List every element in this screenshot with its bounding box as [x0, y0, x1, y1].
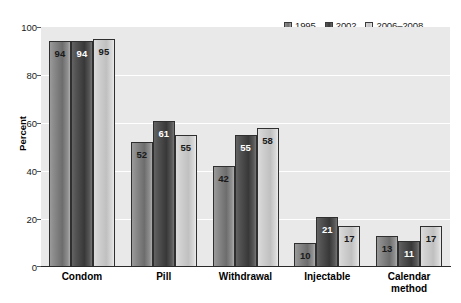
bar[interactable]: 94 — [71, 41, 93, 267]
bar-value-label: 55 — [236, 143, 256, 153]
x-label-line: method — [368, 283, 450, 295]
bar[interactable]: 58 — [257, 128, 279, 267]
bar-group: 102117 — [294, 27, 360, 267]
bar[interactable]: 17 — [420, 226, 442, 267]
bar-group: 131117 — [376, 27, 442, 267]
bar-value-label: 11 — [399, 249, 419, 259]
x-label-line: Condom — [41, 271, 123, 283]
bar-value-label: 61 — [154, 129, 174, 139]
bar-value-label: 13 — [377, 244, 397, 254]
bar-value-label: 94 — [50, 49, 70, 59]
x-axis-category-label: Pill — [123, 271, 205, 283]
y-tick-label: 40 — [0, 166, 37, 177]
x-axis-line — [41, 266, 451, 267]
bar-chart: 1995 2002 2006–2008 Percent 100 80 60 40… — [0, 0, 461, 303]
bar[interactable]: 55 — [235, 135, 257, 267]
x-axis-category-label: Condom — [41, 271, 123, 283]
x-axis-category-label: Calendarmethod — [368, 271, 450, 294]
bar[interactable]: 61 — [153, 121, 175, 267]
bar-value-label: 17 — [421, 234, 441, 244]
bar-value-label: 52 — [132, 150, 152, 160]
x-axis-category-label: Withdrawal — [205, 271, 287, 283]
bar-value-label: 10 — [295, 251, 315, 261]
bar[interactable]: 95 — [93, 39, 115, 267]
x-label-line: Pill — [123, 271, 205, 283]
bar[interactable]: 17 — [338, 226, 360, 267]
bar[interactable]: 42 — [213, 166, 235, 267]
y-tick-label: 80 — [0, 70, 37, 81]
x-axis-labels: CondomPillWithdrawalInjectableCalendarme… — [41, 271, 450, 303]
bar[interactable]: 55 — [175, 135, 197, 267]
bar[interactable]: 52 — [131, 142, 153, 267]
bar-value-label: 42 — [214, 174, 234, 184]
bar[interactable]: 13 — [376, 236, 398, 267]
bar-group: 949495 — [49, 27, 115, 267]
y-tick-label: 0 — [0, 262, 37, 273]
y-tick-label: 100 — [0, 22, 37, 33]
bar-group: 425558 — [213, 27, 279, 267]
bar-groups: 949495526155425558102117131117 — [41, 27, 450, 267]
bar-value-label: 95 — [94, 47, 114, 57]
x-label-line: Calendar — [368, 271, 450, 283]
bar[interactable]: 21 — [316, 217, 338, 267]
bar[interactable]: 11 — [398, 241, 420, 267]
x-label-line: Injectable — [286, 271, 368, 283]
bar-value-label: 17 — [339, 234, 359, 244]
bar-value-label: 21 — [317, 225, 337, 235]
y-tick-label: 20 — [0, 214, 37, 225]
bar-value-label: 55 — [176, 143, 196, 153]
x-label-line: Withdrawal — [205, 271, 287, 283]
y-tick-label: 60 — [0, 118, 37, 129]
bar-group: 526155 — [131, 27, 197, 267]
bar[interactable]: 10 — [294, 243, 316, 267]
bar-value-label: 94 — [72, 49, 92, 59]
x-axis-category-label: Injectable — [286, 271, 368, 283]
bar-value-label: 58 — [258, 136, 278, 146]
bar[interactable]: 94 — [49, 41, 71, 267]
